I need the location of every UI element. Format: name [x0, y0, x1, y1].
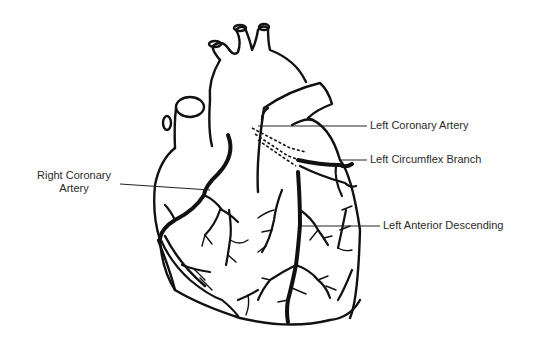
leader-lines: [120, 126, 380, 226]
label-right-coronary-artery: Right Coronary Artery: [28, 169, 120, 195]
label-left-circumflex-branch: Left Circumflex Branch: [370, 153, 481, 166]
leader-right-coronary: [120, 184, 210, 190]
left-anterior-descending-vessels: [258, 172, 352, 322]
label-right-coronary-line2: Artery: [28, 182, 120, 195]
label-right-coronary-line1: Right Coronary: [28, 169, 120, 182]
label-left-anterior-descending: Left Anterior Descending: [383, 219, 503, 232]
superior-vena-cava: [163, 97, 204, 148]
heart-diagram: Left Coronary Artery Left Circumflex Bra…: [0, 0, 544, 350]
label-left-coronary-artery: Left Coronary Artery: [370, 119, 468, 132]
aortic-arch: [209, 24, 306, 146]
pulmonary-trunk: [258, 83, 360, 318]
